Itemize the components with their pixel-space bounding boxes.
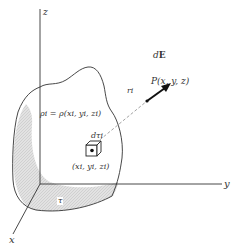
y-axis-label: y [224,179,230,189]
charge-density-label: ρi = ρ(xi, yi, zi) [40,110,101,118]
volume-element-cube [86,141,101,156]
field-element-vector: E [159,50,166,60]
source-point-label: (xi, yi, zi) [72,163,109,171]
volume-element-label: dτi [91,132,103,140]
field-element-label: dE [153,51,166,60]
field-point-label: P(x, y, z) [151,77,189,86]
volume-region-label: τ [57,197,63,205]
x-axis-label: x [9,235,15,245]
volume-charge-diagram [0,0,238,248]
separation-label: ri [127,87,133,95]
shaded-region [14,104,118,211]
field-vector-arrow [147,88,165,101]
z-axis-label: z [43,8,48,17]
